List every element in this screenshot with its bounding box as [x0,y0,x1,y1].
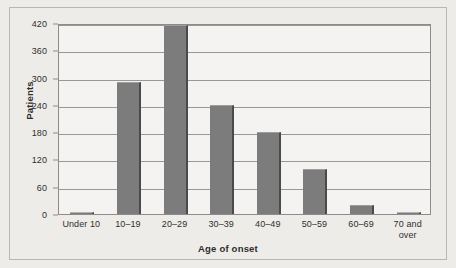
x-tick-label: 70 andover [378,219,438,240]
y-tick-label: 120 [1,155,47,165]
bar [303,169,327,214]
bar [210,105,234,214]
bar [350,205,374,214]
x-axis-title: Age of onset [0,243,456,254]
bar [164,25,188,214]
bar [257,132,281,214]
gridline [59,134,430,135]
bar [70,212,94,214]
y-tick-label: 60 [1,183,47,193]
chart-figure: Patients 060120180240300360420 Under 101… [0,0,456,268]
x-tick-label-line: over [378,230,438,241]
x-tick-label-line: 70 and [378,219,438,230]
gridline [59,80,430,81]
y-tick-label: 0 [1,210,47,220]
bar [397,212,421,214]
gridline [59,25,430,26]
gridline [59,161,430,162]
bar [117,82,141,214]
y-tick-label: 180 [1,128,47,138]
gridline [59,189,430,190]
y-tick-label: 240 [1,101,47,111]
gridline [59,107,430,108]
y-tick-label: 300 [1,74,47,84]
plot-area [58,24,431,215]
y-tick-label: 360 [1,46,47,56]
y-tick-label: 420 [1,19,47,29]
gridline [59,52,430,53]
